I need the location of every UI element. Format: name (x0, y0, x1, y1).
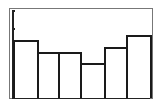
bar-4 (80, 63, 106, 98)
bar-6 (126, 35, 152, 98)
bar-2 (37, 52, 60, 98)
bar-1 (13, 40, 39, 98)
bar-5 (104, 47, 128, 98)
bar-3 (58, 52, 82, 98)
plot-area (13, 10, 150, 98)
